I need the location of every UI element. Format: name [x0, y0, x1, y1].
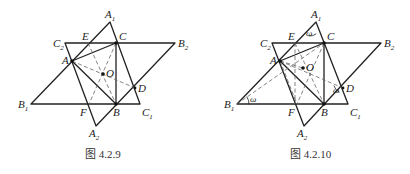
label-a: A [269, 54, 277, 66]
label-a1: A1 [104, 8, 115, 23]
label-b2: B2 [384, 37, 395, 52]
label-b: B [321, 106, 328, 118]
label-e: E [81, 30, 89, 42]
point-d [342, 87, 345, 90]
label-f: F [287, 106, 295, 118]
label-omega-d: ω [333, 85, 339, 95]
label-b2: B2 [178, 37, 189, 52]
label-a1: A1 [310, 8, 321, 23]
label-b: B [113, 106, 120, 118]
label-a: A [61, 54, 69, 66]
point-d [134, 87, 137, 90]
label-b1: B1 [18, 98, 28, 113]
label-o: O [106, 67, 114, 79]
label-b1: B1 [224, 98, 234, 113]
figure-4-2-9: A1 C2 E C B2 A O D B1 F B C1 A2 图 4.2.9 [18, 8, 189, 160]
point-o [101, 72, 105, 76]
label-c1: C1 [142, 106, 153, 121]
point-a [70, 59, 74, 63]
point-c [322, 41, 326, 45]
figure-4-2-10: A1 C2 E C B2 A O D B1 F B C1 A2 ω ω ω 图 … [224, 8, 395, 160]
label-omega-b1: ω [250, 94, 256, 104]
point-o [301, 66, 305, 70]
label-c2: C2 [53, 37, 64, 52]
label-d: D [345, 82, 354, 94]
label-c1: C1 [350, 106, 361, 121]
point-a [278, 59, 282, 63]
label-f: F [79, 106, 87, 118]
label-a2: A2 [296, 127, 308, 142]
figure-caption: 图 4.2.10 [290, 148, 332, 160]
label-c: C [119, 30, 127, 42]
label-c2: C2 [260, 37, 271, 52]
figure-caption: 图 4.2.9 [85, 148, 121, 160]
label-c: C [327, 30, 335, 42]
label-d: D [137, 82, 146, 94]
angle-arc-b1 [247, 97, 249, 104]
geometry-figures: A1 C2 E C B2 A O D B1 F B C1 A2 图 4.2.9 [0, 0, 410, 174]
label-a2: A2 [88, 127, 100, 142]
label-o: O [306, 61, 314, 73]
label-e: E [287, 30, 295, 42]
point-c [114, 41, 118, 45]
label-omega-a1: ω [306, 28, 312, 38]
